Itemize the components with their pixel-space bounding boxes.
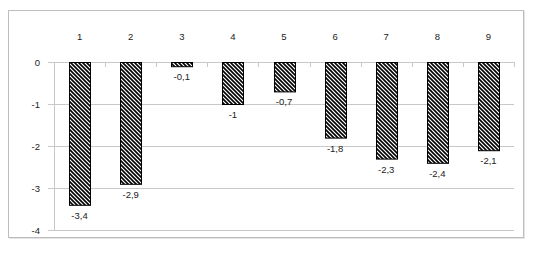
category-label: 8	[435, 31, 440, 42]
data-label: -2,3	[378, 164, 394, 175]
data-label: -2,1	[480, 155, 496, 166]
category-label: 4	[230, 31, 235, 42]
bar	[428, 63, 449, 164]
bar	[326, 63, 347, 139]
data-label: -3,4	[71, 210, 87, 221]
y-tick-label: -4	[32, 225, 40, 236]
bar	[121, 63, 142, 185]
category-label: 6	[332, 31, 337, 42]
bar	[223, 63, 244, 105]
bar	[377, 63, 398, 160]
y-tick-label: 0	[35, 57, 40, 68]
data-label: -0,7	[276, 96, 292, 107]
category-label: 5	[281, 31, 286, 42]
bar	[172, 63, 193, 67]
category-label: 9	[486, 31, 491, 42]
category-label: 1	[77, 31, 82, 42]
category-label: 7	[384, 31, 389, 42]
y-tick-label: -2	[32, 141, 40, 152]
data-label: -2,9	[122, 189, 138, 200]
y-tick-label: -3	[32, 183, 40, 194]
data-label: -1	[229, 109, 237, 120]
data-label: -1,8	[327, 143, 343, 154]
y-tick-label: -1	[32, 99, 40, 110]
category-label: 2	[128, 31, 133, 42]
bars	[70, 63, 500, 206]
data-label: -0,1	[174, 71, 190, 82]
bar-chart: 0-1-2-3-4 123456789 -3,4-2,9-0,1-1-0,7-1…	[0, 0, 533, 256]
bar	[70, 63, 91, 206]
bar	[275, 63, 296, 92]
bar	[479, 63, 500, 151]
x-axis-category-labels: 123456789	[55, 31, 515, 67]
data-label: -2,4	[429, 168, 445, 179]
category-label: 3	[179, 31, 184, 42]
